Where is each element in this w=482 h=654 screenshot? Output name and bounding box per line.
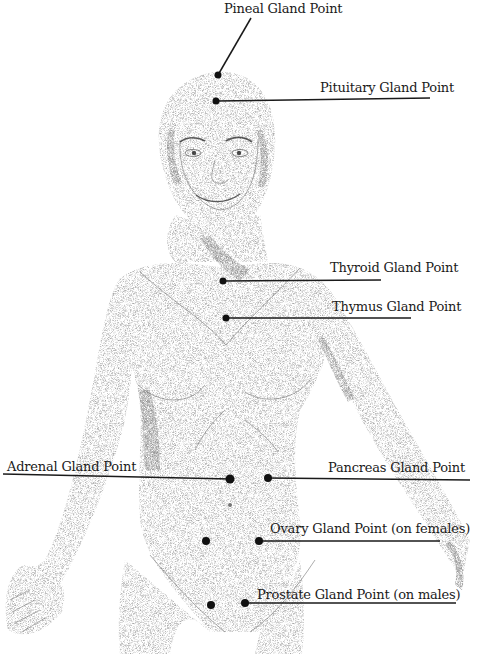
adrenal-label: Adrenal Gland Point	[7, 459, 136, 474]
thymus-point	[223, 315, 230, 322]
pineal-label: Pineal Gland Point	[224, 1, 342, 16]
prostate-point-left	[207, 601, 215, 609]
thyroid-leader	[223, 280, 381, 281]
pineal-leader	[218, 18, 251, 75]
ovary-label: Ovary Gland Point (on females)	[270, 521, 470, 536]
prostate-label: Prostate Gland Point (on males)	[257, 587, 460, 602]
pineal-point	[215, 72, 222, 79]
prostate-point-right	[241, 599, 249, 607]
thymus-label: Thymus Gland Point	[332, 299, 461, 314]
pituitary-point	[213, 98, 220, 105]
body-stipple	[6, 72, 470, 654]
female-figure-illustration	[0, 0, 482, 654]
ovary-point-left	[202, 537, 210, 545]
thyroid-point	[220, 278, 227, 285]
pituitary-label: Pituitary Gland Point	[320, 80, 454, 95]
pancreas-label: Pancreas Gland Point	[328, 460, 465, 475]
gland-points-diagram: Pineal Gland Point Pituitary Gland Point…	[0, 0, 482, 654]
pancreas-point	[264, 474, 272, 482]
thyroid-label: Thyroid Gland Point	[330, 260, 458, 275]
pancreas-leader	[268, 478, 470, 480]
ovary-point-right	[255, 537, 263, 545]
adrenal-point	[226, 475, 235, 484]
